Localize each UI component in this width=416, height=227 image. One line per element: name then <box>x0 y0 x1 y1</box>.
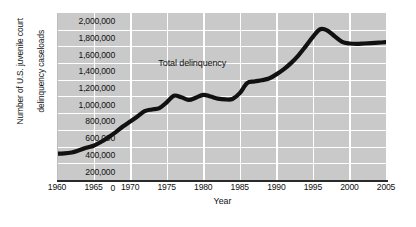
x-axis-tick-label: 1985 <box>220 182 260 192</box>
y-axis-title-line-1: Number of U.S. juvenile court <box>14 0 25 161</box>
annotation-total-delinquency: Total delinquency <box>158 58 226 68</box>
x-axis-title: Year <box>57 196 388 206</box>
series-total-delinquency <box>57 29 386 154</box>
data-line-svg <box>57 13 386 180</box>
x-axis-tick-label: 1980 <box>183 182 223 192</box>
gridline-vertical <box>386 13 388 180</box>
x-axis-tick-label: 1975 <box>147 182 187 192</box>
x-axis-tick-label: 2005 <box>366 182 406 192</box>
x-axis-tick-label: 2000 <box>329 182 369 192</box>
x-axis-tick-label: 1995 <box>293 182 333 192</box>
y-axis-title-line-2: delinquency caseloads <box>35 0 46 161</box>
plot-area: 2,000,0001,800,0001,600,0001,400,0001,20… <box>57 13 386 180</box>
x-axis-tick-label: 1965 <box>74 182 114 192</box>
chart-figure: Number of U.S. juvenile court delinquenc… <box>0 0 416 227</box>
x-axis-tick-label: 1970 <box>110 182 150 192</box>
x-axis-tick-label: 1960 <box>37 182 77 192</box>
x-axis-tick-label: 1990 <box>256 182 296 192</box>
y-axis-line <box>57 13 58 180</box>
y-axis-title: Number of U.S. juvenile court delinquenc… <box>4 0 57 161</box>
